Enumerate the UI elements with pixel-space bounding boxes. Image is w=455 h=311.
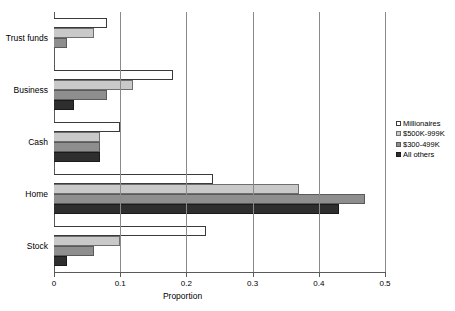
bar [54,18,107,28]
x-tick-mark [120,273,121,277]
legend-item: Millionaires [396,118,455,129]
x-tick-label: 0.1 [108,279,132,289]
x-axis-line [54,272,386,273]
bar [54,38,67,48]
bar [54,100,74,110]
y-category-label: Business [14,85,49,95]
legend-label: $300-499K [403,140,440,149]
legend-label: $500K-999K [403,129,445,138]
bar [54,236,120,246]
x-tick-label: 0.4 [307,279,331,289]
gridline [385,12,386,272]
bar [54,132,100,142]
x-axis-title-text: Proportion [163,291,202,301]
y-category-label: Stock [27,241,48,251]
legend-item: All others [396,150,455,161]
bar [54,256,67,266]
category-group: Cash [54,116,385,168]
x-axis-title: Proportion [0,291,455,301]
bar [54,226,206,236]
gridline [186,12,187,272]
bar [54,28,94,38]
bar [54,122,120,132]
x-tick-label: 0.3 [241,279,265,289]
chart-legend: Millionaires$500K-999K$300-499KAll other… [396,118,455,160]
bar [54,70,173,80]
bar [54,152,100,162]
legend-label: Millionaires [403,119,441,128]
bar [54,90,107,100]
legend-swatch-icon [396,152,401,157]
x-tick-label: 0.5 [373,279,397,289]
x-tick-label: 0 [42,279,66,289]
legend-label: All others [403,150,434,159]
y-category-label: Cash [28,137,48,147]
x-tick-mark [319,273,320,277]
x-tick-label: 0.2 [174,279,198,289]
plot-area: Trust fundsBusinessCashHomeStock [54,12,385,272]
legend-item: $500K-999K [396,129,455,140]
x-tick-mark [253,273,254,277]
legend-swatch-icon [396,131,401,136]
bar [54,142,100,152]
bar [54,174,213,184]
legend-item: $300-499K [396,139,455,150]
category-group: Home [54,168,385,220]
x-tick-mark [186,273,187,277]
y-category-label: Home [25,189,48,199]
legend-swatch-icon [396,121,401,126]
category-group: Stock [54,220,385,272]
bar [54,80,133,90]
bar-chart: Trust fundsBusinessCashHomeStock 00.10.2… [0,0,455,311]
x-tick-mark [385,273,386,277]
gridline [120,12,121,272]
bar [54,204,339,214]
category-group: Business [54,64,385,116]
legend-swatch-icon [396,142,401,147]
y-category-label: Trust funds [6,33,48,43]
bar [54,246,94,256]
gridline [253,12,254,272]
x-tick-mark [54,273,55,277]
gridline [319,12,320,272]
category-group: Trust funds [54,12,385,64]
bar [54,184,299,194]
